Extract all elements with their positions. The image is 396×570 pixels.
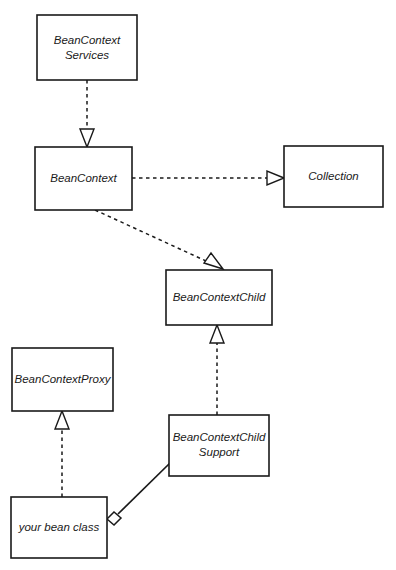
class-name-line1: BeanContextProxy xyxy=(15,373,112,385)
uml-class-diagram: BeanContext Services BeanContext Collect… xyxy=(0,0,396,570)
class-name-line1: Collection xyxy=(308,170,359,182)
hollow-triangle-arrowhead-icon xyxy=(267,171,284,185)
hollow-triangle-arrowhead-icon xyxy=(210,325,224,343)
class-box xyxy=(37,15,137,80)
edge-yourbean-to-proxy xyxy=(55,411,69,497)
class-name-line1: BeanContextChild xyxy=(173,291,266,303)
edge-support-to-beancontextchild xyxy=(210,325,224,415)
class-node-beancontext[interactable]: BeanContext xyxy=(35,147,132,210)
class-node-beancontext-services[interactable]: BeanContext Services xyxy=(37,15,137,80)
edge-beancontext-to-collection xyxy=(132,171,284,185)
class-node-collection[interactable]: Collection xyxy=(284,146,383,207)
edge-yourbean-aggregates-support xyxy=(107,463,170,525)
class-node-your-bean-class[interactable]: your bean class xyxy=(11,497,107,558)
class-node-beancontextchild-support[interactable]: BeanContextChild Support xyxy=(169,415,269,476)
edge-beancontext-to-beancontextchild xyxy=(95,210,223,269)
class-name-line2: Support xyxy=(199,446,240,458)
edge-services-to-beancontext xyxy=(80,80,94,147)
class-name-line1: your bean class xyxy=(18,521,100,533)
class-name-line1: BeanContext xyxy=(50,172,117,184)
edge-line xyxy=(118,463,170,514)
diagram-canvas: BeanContext Services BeanContext Collect… xyxy=(0,0,396,570)
class-name-line1: BeanContext xyxy=(54,34,121,46)
class-node-beancontextproxy[interactable]: BeanContextProxy xyxy=(12,348,113,411)
edge-line xyxy=(95,210,206,261)
hollow-triangle-arrowhead-icon xyxy=(55,411,69,429)
class-node-beancontextchild[interactable]: BeanContextChild xyxy=(166,270,272,325)
class-name-line2: Services xyxy=(65,49,109,61)
hollow-triangle-arrowhead-icon xyxy=(204,253,223,269)
class-name-line1: BeanContextChild xyxy=(173,431,266,443)
hollow-triangle-arrowhead-icon xyxy=(80,129,94,147)
